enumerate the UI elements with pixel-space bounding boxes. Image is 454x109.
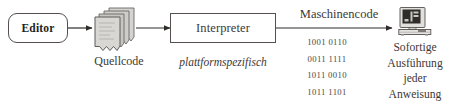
editor-label: Editor (21, 22, 54, 34)
computer-caption-line: Anweisung (376, 87, 454, 103)
binary-line: 0011 1111 (287, 51, 367, 68)
binary-line: 1001 0110 (287, 34, 367, 51)
node-interpreter[interactable]: Interpreter (170, 13, 276, 43)
computer-caption: Sofortige Ausführung jeder Anweisung (376, 40, 454, 102)
interpreter-flow-diagram: Editor Quellcode Interpreter plattformsp… (0, 0, 454, 109)
desktop-computer-icon (398, 7, 432, 37)
computer-caption-line: Sofortige (376, 40, 454, 56)
source-code-caption: Quellcode (76, 54, 162, 69)
node-editor[interactable]: Editor (8, 13, 68, 43)
machine-code-binary-list: 1001 0110 0011 1111 1011 0010 1011 1101 (287, 34, 367, 100)
document-stack-icon (92, 6, 138, 54)
computer-caption-line: Ausführung (376, 56, 454, 72)
machine-code-label: Maschinencode (283, 7, 395, 22)
binary-line: 1011 1101 (287, 84, 367, 101)
interpreter-note: plattformspezifisch (168, 56, 278, 68)
computer-caption-line: jeder (376, 71, 454, 87)
interpreter-label: Interpreter (196, 21, 250, 36)
binary-line: 1011 0010 (287, 67, 367, 84)
